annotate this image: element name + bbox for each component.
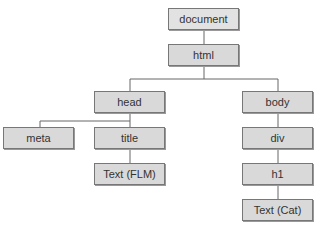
- node-text-flm: Text (FLM): [94, 163, 165, 185]
- node-document: document: [168, 8, 239, 30]
- node-text-cat: Text (Cat): [242, 199, 313, 221]
- node-title: title: [94, 127, 165, 149]
- node-body: body: [242, 91, 313, 113]
- node-html: html: [168, 44, 239, 66]
- node-h1: h1: [242, 163, 313, 185]
- node-head: head: [94, 91, 165, 113]
- node-meta: meta: [3, 127, 74, 149]
- node-div: div: [242, 127, 313, 149]
